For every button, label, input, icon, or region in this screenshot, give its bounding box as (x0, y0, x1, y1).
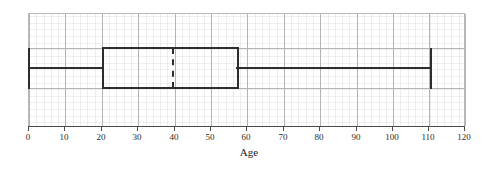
x-axis-tick-label: 90 (352, 132, 361, 143)
gridline-horizontal (29, 48, 464, 49)
x-axis-tick-label: 110 (421, 132, 434, 143)
gridline-vertical (393, 14, 394, 126)
x-axis-tick (28, 127, 29, 131)
boxplot-figure: 0 10 20 30 40 50 60 70 80 90 100 110 120… (0, 0, 498, 170)
x-axis-tick-label: 0 (26, 132, 31, 143)
gridline-vertical (320, 14, 321, 126)
x-axis-tick-label: 40 (170, 132, 179, 143)
gridline-vertical (284, 14, 285, 126)
x-axis-tick (174, 127, 175, 131)
gridline-vertical (102, 14, 103, 126)
gridline-vertical (138, 14, 139, 126)
x-axis-tick-label: 10 (60, 132, 69, 143)
gridline-vertical (175, 14, 176, 126)
x-axis-tick (319, 127, 320, 131)
x-axis-title: Age (0, 146, 498, 159)
x-axis-tick-label: 20 (97, 132, 106, 143)
x-axis-tick-label: 70 (279, 132, 288, 143)
x-axis-tick (246, 127, 247, 131)
x-axis-tick (392, 127, 393, 131)
x-axis-tick (464, 127, 465, 131)
x-axis-tick (428, 127, 429, 131)
gridline-vertical (429, 14, 430, 126)
x-axis-tick-label: 80 (315, 132, 324, 143)
x-axis-tick (283, 127, 284, 131)
x-axis-tick (101, 127, 102, 131)
x-axis-tick-label: 100 (385, 132, 399, 143)
x-axis-tick-label: 30 (133, 132, 142, 143)
plot-area (28, 13, 465, 126)
gridline-vertical (465, 14, 466, 126)
x-axis-tick-label: 120 (457, 132, 471, 143)
gridline-vertical (247, 14, 248, 126)
x-axis-tick (210, 127, 211, 131)
gridline-horizontal (29, 88, 464, 89)
gridline-vertical (211, 14, 212, 126)
x-axis-tick (64, 127, 65, 131)
x-axis-tick (137, 127, 138, 131)
x-axis-tick-label: 50 (206, 132, 215, 143)
gridline-vertical (29, 14, 30, 126)
gridline-vertical (65, 14, 66, 126)
x-axis-tick-label: 60 (242, 132, 251, 143)
gridline-vertical (357, 14, 358, 126)
x-axis-tick (356, 127, 357, 131)
